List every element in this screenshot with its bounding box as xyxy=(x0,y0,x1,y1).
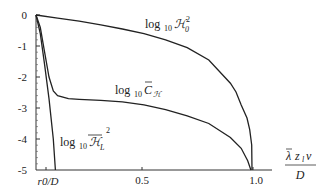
y-tick-label-minus1: -1 xyxy=(18,40,27,52)
curve-hl-squared xyxy=(36,15,55,170)
svg-text:10: 10 xyxy=(79,142,87,151)
y-tick-label-minus3: -3 xyxy=(18,102,28,114)
svg-text:ℋ: ℋ xyxy=(153,90,162,99)
x-tick-label-r0d: r0/D xyxy=(38,175,59,187)
svg-text:10: 10 xyxy=(134,90,142,99)
svg-text:2: 2 xyxy=(106,126,110,135)
y-tick-label-minus2: -2 xyxy=(18,71,27,83)
svg-text:log: log xyxy=(60,135,75,149)
x-axis-label: λ z l ν D xyxy=(285,149,316,182)
y-tick-label-0: 0 xyxy=(22,9,28,21)
chart: 0 -1 -2 -3 -4 -5 r0/D 0.5 1.0 λ z l ν D … xyxy=(0,0,320,196)
x-tick-label-one: 1.0 xyxy=(249,174,263,186)
label-h0-squared: log 10 ℋ 0 2 xyxy=(145,15,190,34)
svg-text:z: z xyxy=(294,149,300,163)
svg-text:2: 2 xyxy=(186,15,190,24)
svg-text:C: C xyxy=(144,83,153,97)
y-tick-label-minus5: -5 xyxy=(18,164,28,176)
svg-text:l: l xyxy=(302,155,305,164)
svg-text:10: 10 xyxy=(164,24,172,33)
svg-text:log: log xyxy=(145,17,160,31)
label-hl-squared: log 10 ℋ L 2 xyxy=(60,126,110,152)
label-c-h: log 10 C ℋ xyxy=(115,82,162,99)
svg-text:log: log xyxy=(115,83,130,97)
svg-text:ν: ν xyxy=(306,149,312,163)
x-tick-label-half: 0.5 xyxy=(135,174,149,186)
svg-text:L: L xyxy=(99,143,105,152)
svg-text:0: 0 xyxy=(185,25,189,34)
svg-text:D: D xyxy=(295,168,305,182)
svg-text:λ: λ xyxy=(285,149,291,163)
y-tick-label-minus4: -4 xyxy=(18,133,28,145)
